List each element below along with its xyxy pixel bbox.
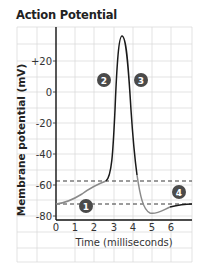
x-tick-label: 4 [130,222,136,233]
y-tick-label: +20 [31,56,52,67]
svg-text:1: 1 [83,202,89,212]
y-tick-label: -80 [36,211,52,222]
y-tick-label: -40 [36,149,52,160]
curve-return [170,204,192,207]
badge-1: 1 [79,199,93,213]
badge-3: 3 [134,73,148,87]
y-axis-label: Membrane potential (mV) [15,64,27,217]
x-tick-label: 5 [149,222,155,233]
badge-4: 4 [172,185,186,199]
action-potential-chart: +20 0 -20 -40 -60 -80 0 1 2 3 4 5 6 Time… [0,0,203,267]
badge-2: 2 [97,73,111,87]
x-tick-label: 2 [91,222,97,233]
svg-text:2: 2 [101,76,107,86]
x-tick-label: 1 [72,222,78,233]
svg-text:3: 3 [138,76,144,86]
x-axis-label: Time (milliseconds) [74,237,172,248]
y-tick-label: 0 [46,87,52,98]
x-tick-label: 6 [168,222,174,233]
y-tick-label: -20 [36,118,52,129]
curve-depolarizing-gray [56,181,106,204]
x-tick-label: 0 [53,222,59,233]
curve-spike [106,36,137,181]
y-tick-label: -60 [36,180,52,191]
x-tick-label: 3 [111,222,117,233]
svg-text:4: 4 [176,188,182,198]
